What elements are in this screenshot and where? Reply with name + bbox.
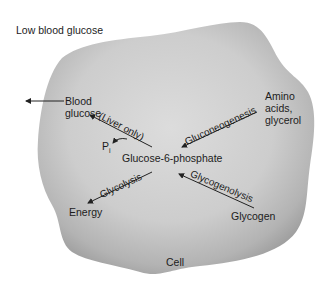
node-amino-line2: acids,	[265, 102, 301, 114]
node-glycogen: Glycogen	[231, 210, 275, 222]
node-pi: Pi	[102, 140, 111, 157]
pi-label: P	[102, 140, 109, 152]
node-blood-glucose: Blood glucose	[65, 95, 101, 119]
node-blood-glucose-line1: Blood	[65, 95, 101, 107]
node-energy: Energy	[69, 206, 102, 218]
cell-membrane	[38, 22, 315, 274]
node-amino-line3: glycerol	[265, 114, 301, 126]
node-blood-glucose-line2: glucose	[65, 107, 101, 119]
diagram-title: Low blood glucose	[16, 24, 103, 36]
diagram-canvas: Low blood glucose Blood glucose Amino ac…	[0, 0, 323, 287]
node-amino-line1: Amino	[265, 90, 301, 102]
pi-subscript: i	[109, 147, 111, 154]
cell-label: Cell	[166, 256, 184, 268]
node-amino-acids-glycerol: Amino acids, glycerol	[265, 90, 301, 126]
node-glucose-6-phosphate: Glucose-6-phosphate	[122, 152, 222, 164]
cell-shape	[0, 0, 323, 287]
